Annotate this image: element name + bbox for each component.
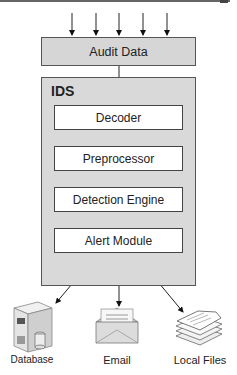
email-label: Email: [94, 354, 140, 366]
database-label: Database: [4, 354, 60, 365]
local-files-label: Local Files: [166, 354, 234, 366]
documents-stack-icon: [0, 0, 237, 375]
